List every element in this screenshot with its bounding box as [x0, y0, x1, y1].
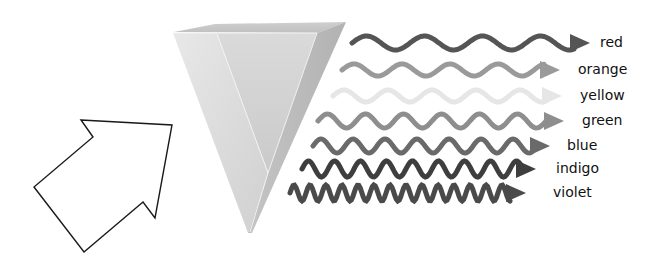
label-violet: violet	[553, 184, 592, 200]
arrowhead-yellow-icon	[542, 87, 562, 105]
arrowhead-blue-icon	[530, 137, 550, 155]
wave-green	[318, 114, 548, 128]
prism-dispersion-diagram	[0, 0, 654, 260]
label-yellow: yellow	[580, 87, 625, 103]
label-green: green	[582, 112, 622, 128]
label-indigo: indigo	[556, 160, 599, 176]
arrowhead-green-icon	[544, 112, 564, 130]
wave-red	[352, 36, 574, 50]
wave-orange	[342, 64, 544, 76]
wave-violet	[290, 185, 510, 201]
arrowhead-red-icon	[570, 34, 590, 52]
arrowhead-orange-icon	[540, 61, 560, 79]
arrowhead-indigo-icon	[516, 160, 536, 178]
wave-yellow	[333, 90, 546, 102]
arrowhead-violet-icon	[506, 184, 526, 202]
label-red: red	[600, 34, 623, 50]
label-orange: orange	[578, 61, 627, 77]
label-blue: blue	[567, 137, 597, 153]
spectrum-waves	[290, 34, 590, 202]
outline-arrow-icon	[34, 120, 172, 252]
wave-indigo	[302, 161, 520, 177]
wave-blue	[313, 139, 534, 153]
